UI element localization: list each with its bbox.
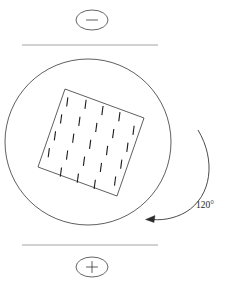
sample-circle-outline	[5, 59, 171, 225]
domain-dash	[59, 114, 64, 123]
domain-dash	[94, 123, 99, 132]
domain-dash	[105, 146, 110, 155]
physics-diagram-svg: 120°	[0, 0, 240, 287]
domain-dash	[113, 177, 118, 186]
domain-dash	[46, 148, 51, 157]
domain-dash	[125, 143, 130, 152]
domain-dash	[71, 134, 76, 143]
domain-dash	[83, 100, 88, 109]
domain-dash	[82, 157, 87, 166]
domain-dash	[65, 151, 70, 160]
domain-dash	[111, 129, 116, 138]
domain-dash	[98, 163, 103, 172]
domain-dash	[100, 106, 105, 115]
domain-dash	[77, 117, 82, 126]
crystal-square-outline	[38, 89, 144, 196]
domain-dash	[119, 160, 124, 169]
crystal-domain-dashes	[42, 94, 139, 195]
domain-dash	[117, 112, 122, 121]
domain-dash	[58, 167, 63, 176]
domain-dash	[131, 126, 136, 135]
domain-dash	[52, 131, 57, 140]
rotation-angle-label: 120°	[196, 200, 214, 210]
positive-terminal-group	[76, 257, 108, 277]
rotation-arrow-head-icon	[146, 216, 156, 223]
domain-dash	[88, 140, 93, 149]
domain-dash	[75, 174, 80, 183]
figure-canvas: 120°	[0, 0, 240, 287]
negative-terminal-group	[76, 10, 108, 30]
domain-dash	[65, 97, 70, 106]
